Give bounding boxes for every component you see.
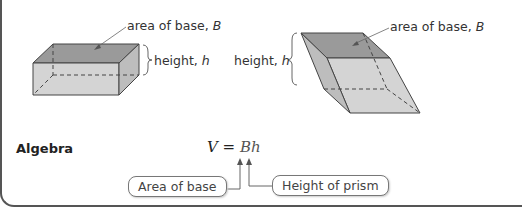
callout-height-of-prism: Height of prism	[272, 175, 389, 196]
right-prism-base-label: area of base, B	[127, 18, 221, 33]
oblique-prism-base-label: area of base, B	[390, 19, 484, 34]
right-prism-height-label: height, h	[154, 53, 210, 68]
oblique-prism-figure	[288, 28, 420, 113]
volume-formula: V = Bh	[207, 138, 261, 156]
oblique-prism-height-label: height, h	[234, 53, 290, 68]
algebra-heading: Algebra	[16, 141, 73, 156]
callout-area-of-base: Area of base	[128, 176, 227, 197]
right-prism-figure	[33, 27, 152, 95]
